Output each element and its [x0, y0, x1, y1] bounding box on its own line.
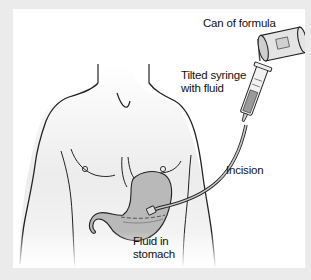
label-fluid-line2: stomach [133, 248, 175, 261]
label-syringe-line1: Tilted syringe [181, 69, 246, 82]
gtube-illustration [13, 9, 305, 268]
label-can-of-formula: Can of formula [203, 17, 276, 30]
label-fluid-in-stomach: Fluid in stomach [133, 235, 175, 261]
illustration-panel: Can of formula Tilted syringe with fluid… [13, 9, 305, 268]
label-fluid-line1: Fluid in [133, 235, 175, 248]
label-incision: Incision [226, 164, 263, 177]
label-tilted-syringe: Tilted syringe with fluid [181, 69, 246, 95]
can-of-formula [256, 26, 305, 62]
label-syringe-line2: with fluid [181, 82, 246, 95]
